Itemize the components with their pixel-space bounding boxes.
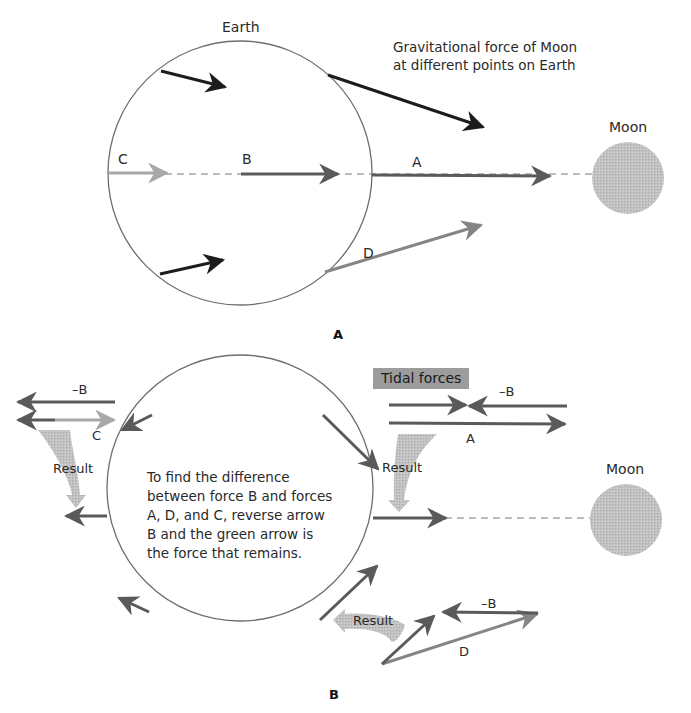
earth-label: Earth bbox=[222, 20, 260, 34]
tidal-arrow-lower-left bbox=[119, 598, 149, 612]
note-line-1: To find the difference bbox=[147, 468, 332, 487]
moon-label-a: Moon bbox=[609, 120, 647, 134]
result-label-left: Result bbox=[53, 462, 93, 475]
caption-a: Gravitational force of Moon at different… bbox=[393, 38, 577, 74]
tidal-forces-label: Tidal forces bbox=[373, 368, 469, 389]
force-a-arrow bbox=[372, 175, 550, 176]
note-line-4: B and the green arrow is bbox=[147, 525, 332, 544]
moon-label-b: Moon bbox=[606, 462, 644, 476]
label-b-a: B bbox=[242, 152, 252, 166]
tidal-arrow-lower-right bbox=[320, 566, 377, 620]
moon-b bbox=[590, 484, 662, 556]
neg-b-label-bottom: –B bbox=[481, 597, 496, 610]
result-label-bottom: Result bbox=[353, 614, 393, 627]
neg-b-label-right: –B bbox=[499, 385, 514, 398]
explanation-note: To find the difference between force B a… bbox=[147, 468, 332, 563]
label-a-a: A bbox=[412, 155, 422, 169]
neg-b-arrow-bottom bbox=[443, 612, 538, 613]
a-arrow-right bbox=[389, 423, 565, 424]
label-c-a: C bbox=[118, 152, 128, 166]
force-arrow-top-left bbox=[161, 71, 225, 87]
moon-a bbox=[592, 142, 664, 214]
result-label-right: Result bbox=[382, 461, 422, 474]
label-d-a: D bbox=[363, 246, 374, 260]
caption-line-2: at different points on Earth bbox=[393, 56, 577, 74]
tidal-arrow-upper-left bbox=[122, 415, 152, 430]
note-line-5: the force that remains. bbox=[147, 544, 332, 563]
note-line-2: between force B and forces bbox=[147, 487, 332, 506]
caption-line-1: Gravitational force of Moon bbox=[393, 38, 577, 56]
label-a-b: A bbox=[466, 432, 475, 445]
panel-b bbox=[18, 355, 662, 664]
label-c-b: C bbox=[92, 429, 101, 442]
tidal-arrow-upper-right bbox=[323, 415, 378, 469]
neg-b-label-left: –B bbox=[72, 383, 87, 396]
force-arrow-bottom-left bbox=[160, 260, 223, 274]
note-line-3: A, D, and C, reverse arrow bbox=[147, 506, 332, 525]
panel-letter-a: A bbox=[333, 327, 343, 342]
label-d-b: D bbox=[459, 645, 469, 658]
panel-a bbox=[108, 41, 664, 305]
panel-letter-b: B bbox=[329, 687, 339, 702]
diagram-canvas bbox=[0, 0, 691, 713]
